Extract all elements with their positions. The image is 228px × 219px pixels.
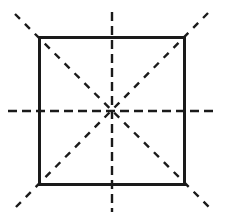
symmetry-axes-diagram: A square outlined with a solid dark bord… bbox=[0, 0, 228, 219]
figure-canvas: A square outlined with a solid dark bord… bbox=[0, 0, 228, 219]
diagram-background bbox=[0, 0, 228, 219]
